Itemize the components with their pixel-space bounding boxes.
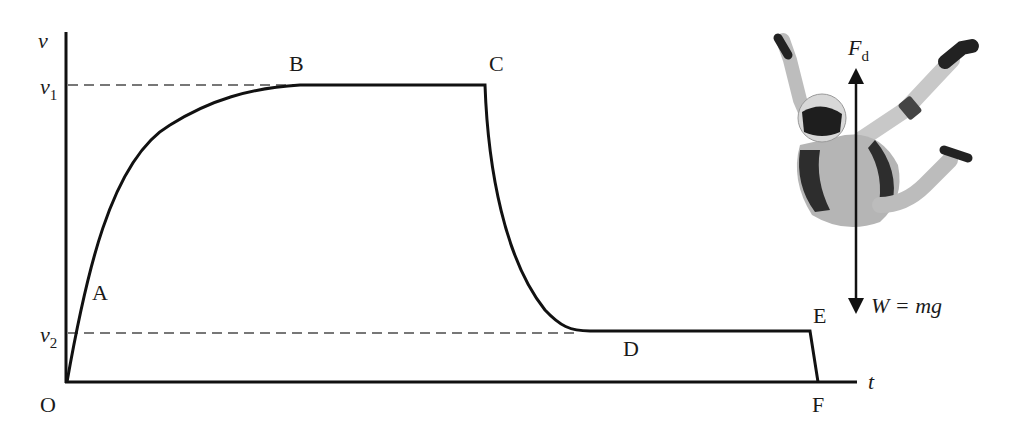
velocity-curve (67, 85, 818, 382)
v2-tick-label: v2 (40, 322, 57, 351)
weight-force-label: W = mg (871, 293, 942, 318)
point-label-a: A (92, 280, 108, 305)
point-label-b: B (289, 51, 304, 76)
point-label-f: F (812, 392, 824, 417)
point-label-e: E (813, 303, 826, 328)
t-axis-label: t (868, 369, 875, 394)
v-axis-label: v (38, 28, 48, 53)
v1-tick-label: v1 (40, 74, 57, 103)
drag-force-label: Fd (847, 35, 869, 64)
point-label-c: C (489, 51, 504, 76)
drag-arrow-head (848, 68, 864, 84)
skydiver-illustration (778, 38, 972, 227)
velocity-time-diagram: v t O v1 v2 A B C D E F Fd W = mg (0, 0, 1016, 436)
origin-label: O (40, 392, 56, 417)
point-label-d: D (623, 336, 639, 361)
weight-arrow-head (848, 298, 864, 314)
